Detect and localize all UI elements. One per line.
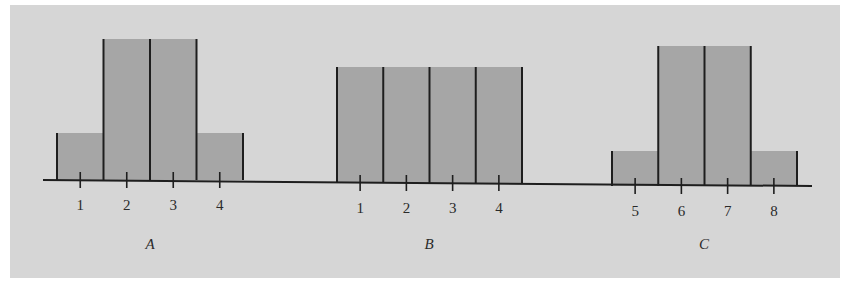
x-tick-label: 6 — [678, 203, 686, 219]
x-tick-label: 4 — [495, 200, 503, 216]
x-tick-label: 2 — [123, 197, 131, 213]
histogram-b-bar-3 — [430, 67, 476, 183]
histogram-b-bar-4 — [476, 67, 522, 183]
x-tick-label: 8 — [770, 203, 778, 219]
histogram-c-bar-7 — [705, 46, 751, 186]
x-tick-label: 5 — [631, 203, 639, 219]
x-tick-label: 3 — [170, 197, 178, 213]
histogram-a-bar-3 — [150, 39, 197, 180]
panel-label-a: A — [144, 236, 155, 252]
x-tick-label: 1 — [356, 200, 364, 216]
x-tick-label: 4 — [216, 197, 224, 213]
labels-layer: A B C 123412345678 — [77, 197, 778, 252]
histogram-a-bar-2 — [104, 39, 151, 180]
histogram-b-bar-2 — [383, 67, 429, 183]
x-tick-label: 7 — [724, 203, 732, 219]
x-tick-label: 3 — [449, 200, 457, 216]
panel-label-c: C — [699, 236, 710, 252]
histogram-figure: A B C 123412345678 — [0, 0, 855, 289]
histogram-b-bar-1 — [337, 67, 383, 183]
bars-layer — [57, 39, 797, 186]
x-tick-label: 1 — [77, 197, 85, 213]
panel-label-b: B — [424, 236, 433, 252]
x-tick-label: 2 — [403, 200, 411, 216]
histogram-c-bar-6 — [658, 46, 704, 186]
